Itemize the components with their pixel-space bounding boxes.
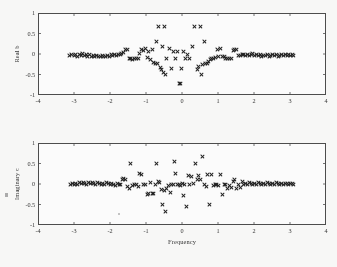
y-tick-label: 0 <box>32 51 35 57</box>
scan-artifact-center <box>118 213 120 215</box>
y-tick-label: 1 <box>32 140 35 146</box>
x-tick-label: -2 <box>108 98 113 104</box>
x-tick-label: 4 <box>325 228 328 234</box>
x-axis-title-frequency: Frequency <box>168 238 196 245</box>
scan-artifact-left <box>5 193 8 197</box>
x-tick-label: 1 <box>217 98 220 104</box>
y-tick-label: -0.5 <box>26 201 35 207</box>
x-tick-label: -4 <box>36 228 41 234</box>
x-tick-label: 2 <box>253 98 256 104</box>
x-tick-label: -1 <box>144 98 149 104</box>
y-tick-label: -0.5 <box>26 71 35 77</box>
x-tick-label: 3 <box>289 228 292 234</box>
x-tick-label: 2 <box>253 228 256 234</box>
chart-panel-imaginary-c: -4-3-2-101234-1-0.500.51 Imaginary c Fre… <box>0 130 337 267</box>
x-tick-label: 4 <box>325 98 328 104</box>
axis-ticks-real-b <box>0 0 337 134</box>
y-tick-label: 1 <box>32 10 35 16</box>
x-tick-label: -1 <box>144 228 149 234</box>
axis-ticks-imaginary-c <box>0 130 337 267</box>
y-tick-label: 0.5 <box>28 30 35 36</box>
x-tick-label: 0 <box>181 228 184 234</box>
y-tick-label: -1 <box>30 222 35 228</box>
y-tick-label: -1 <box>30 92 35 98</box>
x-tick-label: -4 <box>36 98 41 104</box>
chart-panel-real-b: -4-3-2-101234-1-0.500.51 Real b <box>0 0 337 134</box>
x-tick-label: -2 <box>108 228 113 234</box>
x-tick-label: -3 <box>72 228 77 234</box>
figure-canvas: -4-3-2-101234-1-0.500.51 Real b -4-3-2-1… <box>0 0 337 267</box>
y-tick-label: 0 <box>32 181 35 187</box>
y-axis-title-real-b: Real b <box>13 45 20 62</box>
x-tick-label: -3 <box>72 98 77 104</box>
x-tick-label: 1 <box>217 228 220 234</box>
y-axis-title-imaginary-c: Imaginary c <box>13 168 20 200</box>
y-tick-label: 0.5 <box>28 160 35 166</box>
x-tick-label: 0 <box>181 98 184 104</box>
x-tick-label: 3 <box>289 98 292 104</box>
